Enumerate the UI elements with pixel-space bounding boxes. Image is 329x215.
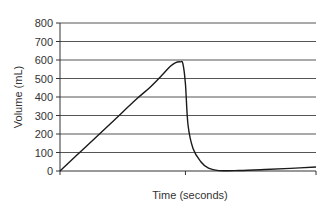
y-axis-ticks: 0100200300400500600700800	[35, 17, 60, 177]
y-tick-label: 600	[35, 54, 53, 66]
volume-time-chart: 0100200300400500600700800 Time (seconds)…	[0, 0, 329, 215]
y-tick-label: 300	[35, 110, 53, 122]
y-tick-label: 800	[35, 17, 53, 29]
y-tick-label: 100	[35, 147, 53, 159]
y-tick-label: 700	[35, 36, 53, 48]
y-tick-label: 0	[47, 165, 53, 177]
y-axis-title: Volume (mL)	[12, 66, 24, 128]
y-tick-label: 400	[35, 91, 53, 103]
volume-curve	[60, 61, 316, 171]
gridlines	[60, 23, 316, 153]
y-tick-label: 200	[35, 128, 53, 140]
y-tick-label: 500	[35, 73, 53, 85]
x-axis-ticks	[60, 171, 316, 175]
x-axis-title: Time (seconds)	[152, 189, 227, 201]
